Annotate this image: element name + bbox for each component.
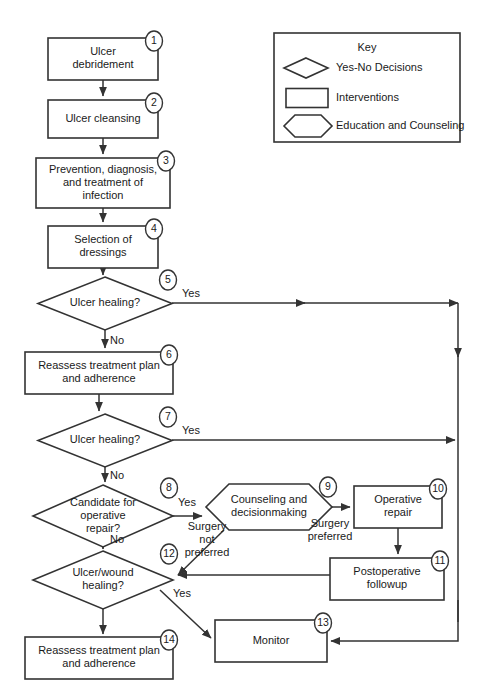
node-11-label-line-2: followup bbox=[367, 578, 407, 590]
node-1-label-line-2: debridement bbox=[72, 58, 133, 70]
edge-label-yes-11: Yes bbox=[173, 587, 191, 599]
node-9-label-line-1: Counseling and bbox=[231, 493, 307, 505]
node-8-label-line-1: Candidate for bbox=[70, 496, 136, 508]
rectangle-shape bbox=[286, 89, 328, 108]
node-5-badge-number: 5 bbox=[165, 273, 171, 285]
node-14-badge-number: 14 bbox=[163, 633, 175, 645]
node-12-badge-number: 12 bbox=[163, 547, 175, 559]
node-14-reassess-treatment-plan-and-adherence[interactable]: Reassess treatment planand adherence14 bbox=[25, 630, 178, 679]
node-10-badge-number: 10 bbox=[432, 482, 444, 494]
node-1-label-line-1: Ulcer bbox=[90, 45, 116, 57]
node-8-candidate-for-operative-repair[interactable]: Candidate foroperativerepair?8 bbox=[33, 478, 178, 547]
key-title: Key bbox=[358, 41, 377, 53]
edge-label-yes-4: Yes bbox=[178, 496, 196, 508]
node-6-label-line-2: and adherence bbox=[62, 372, 135, 384]
node-8-badge-number: 8 bbox=[166, 481, 172, 493]
node-5-label-line-1: Ulcer healing? bbox=[70, 296, 140, 308]
node-14-label-line-2: and adherence bbox=[62, 657, 135, 669]
node-2-ulcer-cleansing[interactable]: Ulcer cleansing2 bbox=[48, 93, 163, 138]
node-1-ulcer-debridement[interactable]: Ulcerdebridement1 bbox=[48, 31, 163, 80]
node-10-label-line-2: repair bbox=[384, 506, 412, 518]
edge-label-surgery-6: Surgery bbox=[188, 520, 227, 532]
ulcer-treatment-flowchart: Ulcerdebridement1Ulcer cleansing2Prevent… bbox=[0, 0, 484, 689]
key-item-label-2: Interventions bbox=[336, 91, 399, 103]
node-14-label-line-1: Reassess treatment plan bbox=[38, 644, 160, 656]
flowchart-canvas: Ulcerdebridement1Ulcer cleansing2Prevent… bbox=[0, 0, 484, 689]
node-3-label-line-3: infection bbox=[83, 189, 124, 201]
node-4-label-line-1: Selection of bbox=[74, 233, 132, 245]
edge-label-not-7: not bbox=[199, 533, 214, 545]
node-4-label-line-2: dressings bbox=[79, 246, 127, 258]
node-6-badge-number: 6 bbox=[166, 348, 172, 360]
edge-label-no-5: No bbox=[110, 533, 124, 545]
key-item-label-3: Education and Counseling bbox=[336, 119, 464, 131]
edge-label-preferred-10: preferred bbox=[308, 530, 353, 542]
node-6-label-line-1: Reassess treatment plan bbox=[38, 359, 160, 371]
node-4-selection-of-dressings[interactable]: Selection ofdressings4 bbox=[48, 219, 163, 268]
node-13-badge-number: 13 bbox=[317, 616, 329, 628]
node-11-postoperative-followup[interactable]: Postoperativefollowup11 bbox=[330, 551, 449, 600]
edge-label-no-3: No bbox=[110, 469, 124, 481]
edge-label-surgery-9: Surgery bbox=[311, 517, 350, 529]
node-7-label-line-1: Ulcer healing? bbox=[70, 433, 140, 445]
node-11-label-line-1: Postoperative bbox=[353, 565, 420, 577]
node-3-label-line-2: and treatment of bbox=[63, 176, 144, 188]
node-6-reassess-treatment-plan-and-adherence[interactable]: Reassess treatment planand adherence6 bbox=[25, 345, 178, 394]
node-3-prevention-diagnosis-and-treatment-of-infection[interactable]: Prevention, diagnosis,and treatment ofin… bbox=[36, 151, 175, 208]
node-2-label-line-1: Ulcer cleansing bbox=[65, 112, 140, 124]
edge-label-yes-2: Yes bbox=[182, 424, 200, 436]
hexagon-shape bbox=[284, 115, 332, 137]
node-9-label-line-2: decisionmaking bbox=[231, 506, 307, 518]
node-2-badge-number: 2 bbox=[151, 96, 157, 108]
node-12-ulcer-wound-healing[interactable]: Ulcer/woundhealing?12 bbox=[33, 544, 178, 609]
edge-label-yes-0: Yes bbox=[182, 287, 200, 299]
node-12-label-line-2: healing? bbox=[82, 579, 124, 591]
node-13-label-line-1: Monitor bbox=[253, 634, 290, 646]
edge-label-preferred-8: preferred bbox=[185, 546, 230, 558]
node-1-badge-number: 1 bbox=[151, 34, 157, 46]
node-5-ulcer-healing[interactable]: Ulcer healing?5 bbox=[38, 270, 177, 330]
node-10-label-line-1: Operative bbox=[374, 493, 422, 505]
node-10-operative-repair[interactable]: Operativerepair10 bbox=[354, 479, 447, 528]
key-legend: KeyYes-No DecisionsInterventionsEducatio… bbox=[274, 33, 464, 142]
node-8-label-line-2: operative bbox=[80, 509, 125, 521]
node-7-badge-number: 7 bbox=[165, 410, 171, 422]
node-3-label-line-1: Prevention, diagnosis, bbox=[49, 163, 157, 175]
connector-e11-down bbox=[331, 600, 458, 641]
node-13-monitor[interactable]: Monitor13 bbox=[215, 613, 332, 662]
node-7-ulcer-healing[interactable]: Ulcer healing?7 bbox=[38, 407, 177, 467]
node-3-badge-number: 3 bbox=[163, 154, 169, 166]
node-4-badge-number: 4 bbox=[151, 222, 157, 234]
node-11-badge-number: 11 bbox=[435, 554, 446, 566]
node-9-badge-number: 9 bbox=[325, 480, 331, 492]
node-12-label-line-1: Ulcer/wound bbox=[72, 566, 133, 578]
edge-label-no-1: No bbox=[110, 334, 124, 346]
key-item-label-1: Yes-No Decisions bbox=[336, 61, 423, 73]
